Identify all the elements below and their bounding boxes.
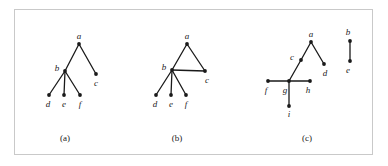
node-label-panel-a-c: c xyxy=(94,79,98,88)
edges-layer xyxy=(49,41,350,106)
graph-node-panel-c-g xyxy=(287,79,291,83)
node-label-panel-c-h: h xyxy=(306,86,311,95)
node-label-panel-c-e: e xyxy=(346,66,350,75)
graph-node-panel-b-e xyxy=(169,93,173,97)
node-label-panel-b-d: d xyxy=(153,100,158,109)
graph-node-panel-c-i xyxy=(287,104,291,108)
graph-edge-panel-b-b-e xyxy=(171,70,172,95)
node-label-panel-c-i: i xyxy=(288,110,291,119)
node-label-panel-a-d: d xyxy=(46,100,51,109)
graph-edge-panel-b-b-d xyxy=(156,70,172,95)
node-label-panel-c-f: f xyxy=(265,86,268,95)
graph-edge-panel-c-a-d xyxy=(311,42,324,64)
node-label-panel-b-e: e xyxy=(169,100,173,109)
figure-container: abcdef(a)abcdef(b)acdfghibe(c) xyxy=(0,0,388,166)
node-label-panel-b-b: b xyxy=(162,63,167,72)
node-label-panel-c-d: d xyxy=(323,69,328,78)
graph-node-panel-a-d xyxy=(47,93,51,97)
graph-node-panel-b-f xyxy=(184,93,188,97)
graph-node-panel-c-d xyxy=(322,62,326,66)
node-label-panel-b-c: c xyxy=(205,76,209,85)
node-label-panel-b-f: f xyxy=(185,100,188,109)
node-label-panel-c-a: a xyxy=(309,30,314,39)
graph-node-panel-b-a xyxy=(185,42,189,46)
node-label-panel-a-f: f xyxy=(79,100,82,109)
graph-edge-panel-b-b-f xyxy=(172,70,186,95)
graph-node-panel-b-c xyxy=(203,69,207,73)
graph-edge-panel-a-a-b xyxy=(65,44,79,71)
graph-node-panel-a-e xyxy=(62,93,66,97)
graph-node-panel-c-e xyxy=(348,59,352,63)
graph-node-panel-a-f xyxy=(78,93,82,97)
graph-edge-panel-b-b-c xyxy=(172,70,205,71)
graph-node-panel-a-c xyxy=(94,72,98,76)
graph-edge-panel-a-b-d xyxy=(49,71,65,95)
caption-panel-a: (a) xyxy=(60,134,70,143)
graph-node-panel-c-f xyxy=(266,79,270,83)
graph-edge-panel-b-a-c xyxy=(187,44,205,71)
node-label-panel-c-b: b xyxy=(346,28,351,37)
graph-edge-panel-a-a-c xyxy=(79,44,96,74)
node-label-panel-a-a: a xyxy=(77,32,82,41)
node-label-panel-c-c: c xyxy=(290,53,294,62)
caption-panel-b: (b) xyxy=(172,134,183,143)
caption-panel-c: (c) xyxy=(302,134,312,143)
graph-edge-panel-b-a-b xyxy=(172,44,187,70)
graph-node-panel-b-d xyxy=(154,93,158,97)
graph-node-panel-c-c xyxy=(299,58,303,62)
node-label-panel-b-a: a xyxy=(185,32,190,41)
graph-node-panel-c-a xyxy=(309,40,313,44)
graph-node-panel-c-h xyxy=(308,79,312,83)
graph-node-panel-a-a xyxy=(77,42,81,46)
graph-node-panel-c-b xyxy=(348,39,352,43)
node-label-panel-a-e: e xyxy=(62,100,66,109)
graph-node-panel-b-b xyxy=(170,68,174,72)
graph-node-panel-a-b xyxy=(63,69,67,73)
graph-edge-panel-a-b-e xyxy=(64,71,65,95)
graph-edge-panel-c-c-g xyxy=(289,60,301,81)
graph-edge-panel-c-a-c xyxy=(301,42,311,60)
graph-drawing-canvas xyxy=(0,0,388,166)
node-label-panel-c-g: g xyxy=(283,86,288,95)
node-label-panel-a-b: b xyxy=(55,64,60,73)
graph-edge-panel-a-b-f xyxy=(65,71,80,95)
